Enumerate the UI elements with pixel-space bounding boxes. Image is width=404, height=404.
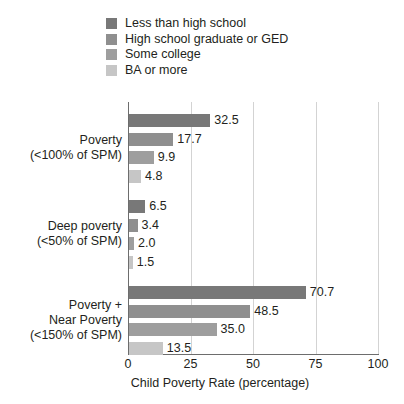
legend-item: High school graduate or GED <box>106 32 346 48</box>
gridline <box>316 102 317 354</box>
x-axis-title: Child Poverty Rate (percentage) <box>0 376 404 390</box>
bar-value-label: 3.4 <box>138 219 159 232</box>
bar <box>129 170 141 183</box>
bar <box>129 286 306 299</box>
bar <box>129 151 154 164</box>
category-label-line: (<50% of SPM) <box>2 234 122 249</box>
legend-swatch-ba-or-more <box>106 65 117 76</box>
x-axis-tick-labels: 0255075100 <box>128 357 380 373</box>
bar-value-label: 9.9 <box>154 151 175 164</box>
bar-value-label: 2.0 <box>134 237 155 250</box>
bar-value-label: 4.8 <box>141 170 162 183</box>
legend-item: Some college <box>106 47 346 63</box>
legend-swatch-high-school-graduate-or-ged <box>106 34 117 45</box>
chart-plot-area: 32.517.79.94.86.53.42.01.570.748.535.013… <box>128 102 378 354</box>
bar-value-label: 6.5 <box>145 200 166 213</box>
bar <box>129 133 173 146</box>
legend-label: BA or more <box>125 64 188 77</box>
chart-legend: Less than high school High school gradua… <box>106 16 346 78</box>
category-label: Poverty +Near Poverty(<150% of SPM) <box>2 298 122 343</box>
gridline <box>378 102 379 354</box>
bar-value-label: 48.5 <box>250 305 278 318</box>
x-axis-tick: 50 <box>246 357 260 371</box>
category-label-line: (<150% of SPM) <box>2 328 122 343</box>
y-axis-category-labels: Poverty(<100% of SPM)Deep poverty(<50% o… <box>2 102 122 354</box>
category-label: Deep poverty(<50% of SPM) <box>2 219 122 249</box>
bar <box>129 219 138 232</box>
bar <box>129 114 210 127</box>
bar-value-label: 70.7 <box>306 286 334 299</box>
x-axis-tick: 0 <box>125 357 132 371</box>
bar <box>129 305 250 318</box>
bar <box>129 342 163 355</box>
category-label-line: Poverty <box>2 133 122 148</box>
legend-item: BA or more <box>106 63 346 79</box>
bar-value-label: 17.7 <box>173 133 201 146</box>
bar-value-label: 35.0 <box>217 323 245 336</box>
legend-swatch-some-college <box>106 49 117 60</box>
bar-value-label: 13.5 <box>163 342 191 355</box>
bar-value-label: 1.5 <box>133 256 154 269</box>
bar-value-label: 32.5 <box>210 114 238 127</box>
legend-label: Less than high school <box>125 17 246 30</box>
category-label: Poverty(<100% of SPM) <box>2 133 122 163</box>
category-label-line: Poverty + <box>2 298 122 313</box>
bar <box>129 200 145 213</box>
x-axis-tick: 75 <box>309 357 323 371</box>
category-label-line: Near Poverty <box>2 313 122 328</box>
category-label-line: Deep poverty <box>2 219 122 234</box>
bar <box>129 323 217 336</box>
legend-label: High school graduate or GED <box>125 33 288 46</box>
legend-item: Less than high school <box>106 16 346 32</box>
x-axis-tick: 25 <box>184 357 198 371</box>
category-label-line: (<100% of SPM) <box>2 148 122 163</box>
x-axis-tick: 100 <box>368 357 389 371</box>
x-axis-title-text: Child Poverty Rate (percentage) <box>131 376 310 390</box>
legend-swatch-less-than-high-school <box>106 18 117 29</box>
legend-label: Some college <box>125 48 201 61</box>
